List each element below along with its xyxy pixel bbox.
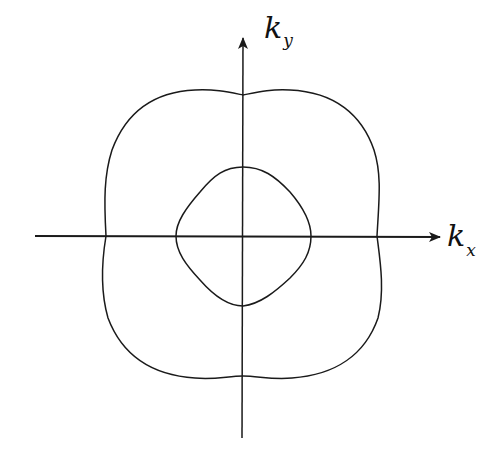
- ky-axis: [242, 38, 243, 438]
- ky-label: ky: [264, 10, 292, 45]
- kx-label: kx: [447, 218, 475, 253]
- k-space-diagram: ky kx: [0, 0, 491, 457]
- kx-axis: [35, 236, 440, 237]
- diagram-plot: [0, 0, 491, 457]
